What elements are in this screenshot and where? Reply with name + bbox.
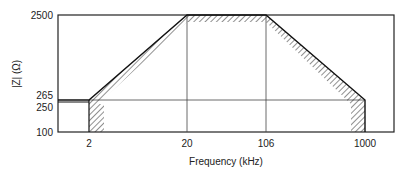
limit-line: [58, 15, 365, 132]
plot-frame: [58, 15, 394, 132]
x-axis-label: Frequency (kHz): [189, 156, 263, 167]
x-tick-106: 106: [258, 138, 275, 149]
hatch-falling: [266, 15, 365, 132]
x-tick-20: 20: [181, 138, 193, 149]
y-tick-100: 100: [36, 127, 53, 138]
x-tick-2: 2: [86, 138, 92, 149]
y-axis-label: |Z| (Ω): [11, 60, 22, 88]
hatch-top: [187, 15, 266, 22]
hatch-rising: [89, 15, 187, 132]
x-tick-1000: 1000: [354, 138, 377, 149]
y-tick-250: 250: [36, 102, 53, 113]
y-tick-265: 265: [36, 90, 53, 101]
impedance-chart: 2500 265 250 100 2 20 106 1000 Frequency…: [0, 0, 410, 173]
y-tick-2500: 2500: [31, 10, 54, 21]
